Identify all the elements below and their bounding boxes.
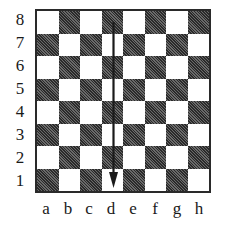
square-g8	[166, 11, 188, 34]
square-d1	[102, 169, 124, 192]
square-d2	[102, 146, 124, 169]
rank-label-8: 8	[12, 11, 28, 28]
square-e2	[123, 146, 145, 169]
square-d7	[102, 34, 124, 57]
file-label-b: b	[60, 200, 76, 217]
file-label-d: d	[103, 200, 119, 217]
file-label-f: f	[147, 200, 163, 217]
square-a3	[37, 124, 59, 147]
square-d4	[102, 101, 124, 124]
square-h7	[188, 34, 210, 57]
square-e1	[123, 169, 145, 192]
square-c5	[80, 79, 102, 102]
square-e3	[123, 124, 145, 147]
square-b5	[59, 79, 81, 102]
square-g2	[166, 146, 188, 169]
square-h4	[188, 101, 210, 124]
square-a5	[37, 79, 59, 102]
square-e5	[123, 79, 145, 102]
square-c7	[80, 34, 102, 57]
square-f7	[145, 34, 167, 57]
square-h1	[188, 169, 210, 192]
square-f1	[145, 169, 167, 192]
file-label-c: c	[81, 200, 97, 217]
square-g3	[166, 124, 188, 147]
square-a4	[37, 101, 59, 124]
square-e7	[123, 34, 145, 57]
square-a8	[37, 11, 59, 34]
rank-label-6: 6	[12, 57, 28, 74]
rank-label-2: 2	[12, 149, 28, 166]
square-a7	[37, 34, 59, 57]
square-g5	[166, 79, 188, 102]
square-b7	[59, 34, 81, 57]
square-c1	[80, 169, 102, 192]
square-b6	[59, 56, 81, 79]
file-label-e: e	[125, 200, 141, 217]
square-c2	[80, 146, 102, 169]
rank-label-7: 7	[12, 34, 28, 51]
square-f5	[145, 79, 167, 102]
square-g7	[166, 34, 188, 57]
square-h6	[188, 56, 210, 79]
square-h2	[188, 146, 210, 169]
square-a1	[37, 169, 59, 192]
square-d8	[102, 11, 124, 34]
square-b2	[59, 146, 81, 169]
square-d5	[102, 79, 124, 102]
square-e6	[123, 56, 145, 79]
chessboard	[35, 9, 211, 193]
square-h8	[188, 11, 210, 34]
square-c8	[80, 11, 102, 34]
rank-label-1: 1	[12, 172, 28, 189]
square-f8	[145, 11, 167, 34]
square-a6	[37, 56, 59, 79]
square-e8	[123, 11, 145, 34]
square-h5	[188, 79, 210, 102]
square-f6	[145, 56, 167, 79]
square-a2	[37, 146, 59, 169]
square-f2	[145, 146, 167, 169]
square-b1	[59, 169, 81, 192]
square-g1	[166, 169, 188, 192]
square-d6	[102, 56, 124, 79]
square-b4	[59, 101, 81, 124]
square-e4	[123, 101, 145, 124]
square-d3	[102, 124, 124, 147]
square-f3	[145, 124, 167, 147]
rank-label-4: 4	[12, 103, 28, 120]
file-label-a: a	[38, 200, 54, 217]
square-c6	[80, 56, 102, 79]
file-label-h: h	[191, 200, 207, 217]
square-b8	[59, 11, 81, 34]
square-f4	[145, 101, 167, 124]
square-b3	[59, 124, 81, 147]
rank-label-5: 5	[12, 80, 28, 97]
square-g6	[166, 56, 188, 79]
square-h3	[188, 124, 210, 147]
file-label-g: g	[169, 200, 185, 217]
square-c4	[80, 101, 102, 124]
square-c3	[80, 124, 102, 147]
rank-label-3: 3	[12, 126, 28, 143]
square-g4	[166, 101, 188, 124]
